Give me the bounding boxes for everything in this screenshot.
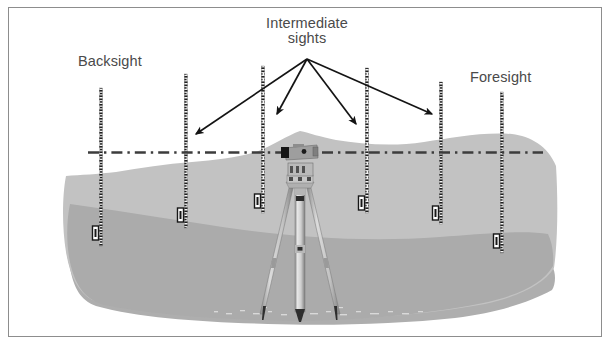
sighting-collimator	[293, 144, 304, 147]
tripod-leg-centre-dark-band	[296, 196, 304, 201]
arrow-to-intermediate-4	[307, 59, 432, 114]
arrow-to-intermediate-1	[196, 59, 307, 134]
ground-group	[63, 131, 557, 325]
tripod-head	[286, 175, 314, 188]
tripod-leg-centre-clamp-screw	[298, 247, 303, 251]
arrow-to-intermediate-2	[277, 59, 307, 114]
level-base-detail-mid	[296, 166, 299, 173]
arrow-to-intermediate-3	[307, 59, 356, 124]
level-base-detail-left	[290, 166, 293, 173]
footscrew-centre	[298, 177, 302, 181]
telescope-eyepiece	[313, 147, 318, 156]
footscrew-right	[307, 177, 311, 181]
focusing-knob	[302, 149, 307, 154]
figure-canvas: Backsight Intermediate sights Foresight	[0, 0, 611, 349]
annotation-arrows	[196, 59, 432, 134]
label-intermediate-sights: Intermediate sights	[248, 16, 366, 46]
label-foresight: Foresight	[470, 70, 531, 85]
tripod-leg-centre-top-band	[295, 188, 305, 195]
level-base-detail-right	[302, 166, 305, 173]
footscrew-left	[289, 177, 293, 181]
label-backsight: Backsight	[78, 54, 142, 69]
label-intermediate-sights-line1: Intermediate	[266, 15, 348, 31]
telescope-objective-lens	[281, 147, 289, 158]
label-intermediate-sights-line2: sights	[248, 31, 366, 46]
